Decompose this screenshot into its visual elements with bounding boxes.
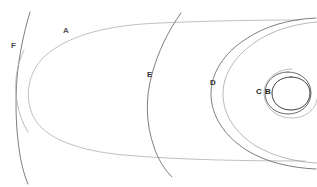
outer-ellipse-a	[28, 20, 305, 161]
curve-label-b: B	[265, 88, 271, 96]
circle-b	[272, 77, 310, 110]
diagram-canvas: A F E D C B	[0, 0, 317, 187]
curve-label-c: C	[256, 88, 262, 96]
arc-f-inner-lobe	[16, 50, 28, 132]
arc-e	[147, 13, 181, 177]
curve-label-a: A	[63, 27, 69, 35]
curve-layer	[16, 12, 317, 184]
large-circle-d	[211, 18, 316, 169]
curve-label-d: D	[210, 79, 216, 87]
arc-f	[16, 12, 30, 184]
curve-label-f: F	[11, 42, 16, 50]
curve-label-e: E	[147, 71, 152, 79]
